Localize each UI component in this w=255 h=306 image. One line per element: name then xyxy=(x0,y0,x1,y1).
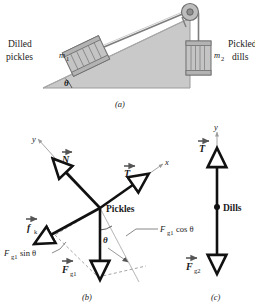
tension-force-symbol-b: T xyxy=(124,168,131,179)
caption-b: (b) xyxy=(82,292,92,302)
particle-dot-c xyxy=(214,204,220,210)
body-label-c: Dills xyxy=(223,203,242,213)
normal-force-symbol: N xyxy=(61,154,70,165)
friction-force-symbol: f xyxy=(27,222,32,233)
vector-tension-force-b: T xyxy=(100,166,147,208)
mass1-symbol: m xyxy=(59,50,65,60)
left-label-line2: pickles xyxy=(6,52,33,62)
gravity-force-2-label: F g2 xyxy=(185,258,201,274)
component-cos-subscript: g1 xyxy=(167,229,174,236)
angle-label-a: θ xyxy=(64,78,69,88)
angle-label-b: θ xyxy=(103,235,108,245)
hanging-crate xyxy=(186,41,211,75)
right-label-line1: Pickled xyxy=(228,39,255,49)
component-cos-symbol: F xyxy=(159,224,166,234)
left-label-line1: Dilled xyxy=(8,39,32,49)
angle-theta-b: θ xyxy=(100,226,112,245)
gravity-force-2-subscript: g2 xyxy=(194,267,201,274)
mass2-subscript: 2 xyxy=(221,55,224,62)
component-cos-label: F g1 cos θ xyxy=(126,224,194,236)
vector-tension-force-c: T xyxy=(198,141,217,207)
component-sin-symbol: F xyxy=(3,248,10,258)
friction-force-label: f k xyxy=(26,219,38,235)
friction-force-subscript: k xyxy=(34,228,38,235)
component-sin-subscript: g1 xyxy=(11,253,18,260)
gravity-force-1-subscript: g1 xyxy=(70,270,77,277)
mass2-symbol: m xyxy=(214,50,220,60)
component-sin-label: F g1 sin θ xyxy=(3,242,66,260)
gravity-force-1-symbol: F xyxy=(61,264,69,275)
vector-friction-force: f k xyxy=(26,208,100,243)
vector-normal-force: N xyxy=(54,152,100,208)
axis-y-label-c: y xyxy=(213,122,218,132)
panel-a: θ xyxy=(6,4,255,110)
right-label-line2: dills xyxy=(232,52,249,62)
gravity-force-1-label: F g1 xyxy=(61,261,77,277)
panel-b: y x θ N xyxy=(3,134,194,302)
panel-c: y T F g2 Dills (c) xyxy=(185,122,242,302)
component-cos-rest: cos θ xyxy=(176,224,194,234)
caption-c: (c) xyxy=(211,292,221,302)
axis-y-label-b: y xyxy=(31,134,36,144)
figure-container: θ xyxy=(0,0,255,306)
component-sin-rest: sin θ xyxy=(20,248,36,258)
normal-force-label: N xyxy=(61,152,72,165)
mass1-subscript: 1 xyxy=(66,55,69,62)
caption-a: (a) xyxy=(115,99,125,109)
tension-force-label-c: T xyxy=(198,141,209,154)
tension-force-label-b: T xyxy=(124,166,135,179)
gravity-force-2-symbol: F xyxy=(185,261,193,272)
axis-x-label-b: x xyxy=(164,157,169,167)
body-label-b: Pickles xyxy=(106,204,135,214)
vector-gravity-force-2: F g2 xyxy=(185,207,217,274)
tension-force-symbol-c: T xyxy=(199,143,206,154)
mass2-label: m 2 xyxy=(214,50,224,62)
